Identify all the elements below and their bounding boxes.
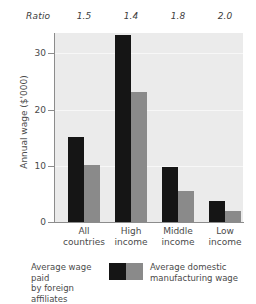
x-axis-line bbox=[54, 222, 244, 223]
ratio-value-low-income: 2.0 bbox=[210, 11, 240, 21]
x-label-line-1: Low bbox=[197, 226, 253, 237]
bar-low-income-domestic bbox=[225, 211, 241, 222]
y-tick-mark-10 bbox=[48, 166, 54, 167]
bar-all-countries-domestic bbox=[84, 165, 100, 222]
gridline-30 bbox=[55, 53, 243, 54]
bar-middle-income-domestic bbox=[178, 191, 194, 222]
ratio-value-high-income: 1.4 bbox=[116, 11, 146, 21]
bar-all-countries-foreign bbox=[68, 137, 84, 222]
legend-label-line-1: Average wage paid bbox=[31, 262, 105, 283]
legend-label-line-1: Average domestic bbox=[150, 262, 250, 273]
legend-swatch-domestic-manufacturing bbox=[126, 263, 143, 280]
x-label-low-income: Low income bbox=[197, 226, 253, 248]
bar-low-income-foreign bbox=[209, 201, 225, 222]
y-tick-label-0: 0 bbox=[20, 217, 46, 227]
legend-label-line-2: by foreign affiliates bbox=[31, 283, 105, 304]
bar-middle-income-foreign bbox=[162, 167, 178, 222]
legend-swatch-foreign-affiliates bbox=[109, 263, 126, 280]
y-tick-mark-0 bbox=[48, 222, 54, 223]
y-axis-line bbox=[54, 33, 55, 223]
ratio-value-middle-income: 1.8 bbox=[163, 11, 193, 21]
y-tick-mark-30 bbox=[48, 53, 54, 54]
legend-swatch-group bbox=[109, 263, 143, 280]
ratio-annotation-row: Ratio 1.5 1.4 1.8 2.0 bbox=[0, 11, 256, 29]
x-label-line-2: income bbox=[197, 237, 253, 248]
bar-high-income-domestic bbox=[131, 92, 147, 222]
y-tick-mark-20 bbox=[48, 110, 54, 111]
bar-high-income-foreign bbox=[115, 35, 131, 222]
legend-label-domestic-manufacturing: Average domestic manufacturing wage bbox=[150, 262, 250, 283]
legend-label-line-2: manufacturing wage bbox=[150, 273, 250, 284]
plot-area bbox=[55, 33, 243, 222]
ratio-row-label: Ratio bbox=[26, 11, 50, 21]
y-axis-title: Annual wage ($'000) bbox=[19, 47, 29, 197]
chart-legend: Average wage paid by foreign affiliates … bbox=[0, 261, 256, 287]
ratio-value-all-countries: 1.5 bbox=[69, 11, 99, 21]
gridline-20 bbox=[55, 110, 243, 111]
legend-label-foreign-affiliates: Average wage paid by foreign affiliates bbox=[31, 262, 105, 304]
